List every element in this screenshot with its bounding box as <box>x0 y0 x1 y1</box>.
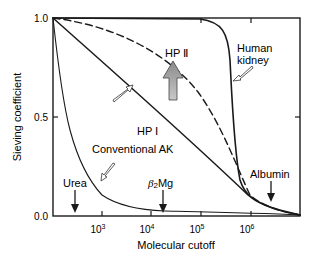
sieving-chart: 1.0 0.5 0.0 103 104 105 106 Molecular cu… <box>0 0 316 258</box>
albumin-arrow-icon <box>267 181 275 202</box>
label-conventional-ak: Conventional AK <box>92 143 174 155</box>
x-tick-1e6: 106 <box>239 223 254 235</box>
label-albumin: Albumin <box>250 168 290 180</box>
label-b2mg: β2Mg <box>147 177 173 190</box>
pointer-hp1-icon <box>113 85 133 102</box>
x-tick-1e4: 104 <box>139 223 154 235</box>
pointer-human-kidney-icon <box>233 66 253 81</box>
b2mg-arrow-icon <box>159 190 167 213</box>
label-hp1: HP Ⅰ <box>137 125 158 137</box>
x-tick-1e3: 103 <box>90 223 105 235</box>
label-human-kidney-line2: kidney <box>237 54 269 66</box>
urea-arrow-icon <box>71 190 79 213</box>
y-tick-1-0: 1.0 <box>34 13 48 24</box>
y-tick-0-0: 0.0 <box>34 211 48 222</box>
improvement-up-arrow-icon <box>163 61 183 100</box>
y-axis-title: Sieving coefficient <box>11 73 23 161</box>
x-tick-1e5: 105 <box>189 223 204 235</box>
pointer-conventional-ak-icon <box>101 163 115 181</box>
x-axis-title: Molecular cutoff <box>137 239 215 251</box>
label-hp2: HP Ⅱ <box>165 47 188 59</box>
y-tick-0-5: 0.5 <box>34 112 48 123</box>
label-urea: Urea <box>63 177 88 189</box>
label-human-kidney-line1: Human <box>237 42 272 54</box>
